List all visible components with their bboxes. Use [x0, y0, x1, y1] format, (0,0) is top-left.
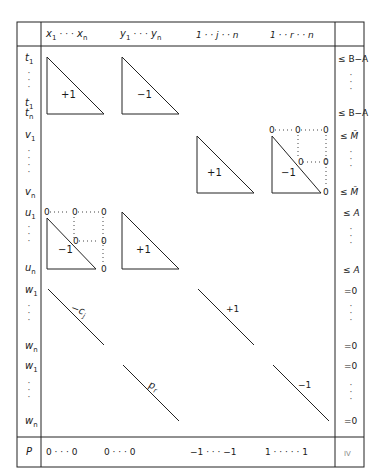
- triangle-v-j: [197, 136, 254, 193]
- constraint-t-last: ≤ B−A: [338, 108, 368, 118]
- row-label-u-last: un: [25, 263, 36, 277]
- constraint-t-first: ≤ B−A: [338, 54, 368, 64]
- block-u-x-value: −1: [58, 245, 73, 255]
- row-label-w-a-last: wn: [25, 341, 38, 355]
- zero-u-x-2: 0: [72, 207, 78, 217]
- zero-v-r-6: 0: [323, 187, 329, 197]
- constraint-w-b-last: =0: [344, 416, 357, 426]
- row-label-u-first: u1: [25, 208, 36, 222]
- row-dots-u: ···: [24, 224, 34, 245]
- row-label-w-b-last: wn: [25, 416, 38, 430]
- row-label-p: P: [26, 447, 32, 457]
- constraint-v-last: ≤ M̄: [340, 187, 358, 197]
- row-dots-w-b: ···: [24, 380, 34, 401]
- objective-r-values: 1 · · · · · 1: [265, 447, 308, 457]
- constraint-w-a-last: =0: [344, 341, 357, 351]
- row-label-v-first: v1: [25, 130, 35, 144]
- zero-v-r-4: 0: [298, 157, 304, 167]
- header-j-columns: 1 · · j · · n: [196, 30, 239, 40]
- zero-v-r-5: 0: [323, 157, 329, 167]
- constraint-p: IV: [344, 449, 351, 459]
- block-u-y-value: +1: [136, 245, 151, 255]
- row-dots-t: ···: [24, 70, 34, 91]
- objective-j-values: −1 · · · −1: [190, 447, 237, 457]
- header-y-columns: y1 · · · yn: [120, 29, 161, 43]
- constraint-u-first: ≤ A: [343, 208, 360, 218]
- diagonal-w-a-j: [198, 289, 254, 345]
- row-label-t-last-b: tn: [25, 108, 33, 122]
- objective-y-values: 0 · · · 0: [104, 447, 135, 457]
- triangle-v-r: [272, 136, 321, 193]
- diagonal-w-a-j-value: +1: [226, 304, 239, 314]
- row-label-w-b-first: w1: [25, 361, 38, 375]
- diagonal-w-b-r: [273, 365, 329, 421]
- row-dots-w-a: ···: [24, 303, 34, 324]
- zero-v-r-1: 0: [269, 125, 275, 135]
- header-r-columns: 1 · · r · · n: [270, 30, 314, 40]
- constraint-w-a-first: =0: [344, 286, 357, 296]
- zero-v-r-3: 0: [323, 125, 329, 135]
- triangle-t-x: [47, 57, 104, 114]
- matrix-drawing: [0, 0, 386, 473]
- constraint-w-b-first: =0: [344, 361, 357, 371]
- constraint-v-first: ≤ M̄: [340, 131, 358, 141]
- block-t-y-value: −1: [137, 90, 152, 100]
- zero-u-x-6: 0: [101, 264, 107, 274]
- triangle-u-y: [122, 212, 179, 269]
- block-t-x-value: +1: [61, 90, 76, 100]
- objective-x-values: 0 · · · 0: [46, 447, 77, 457]
- diagonal-w-b-r-value: −1: [298, 380, 311, 390]
- block-v-r-value: −1: [281, 168, 296, 178]
- zero-u-x-3: 0: [101, 207, 107, 217]
- zero-u-x-5: 0: [101, 236, 107, 246]
- triangle-t-y: [122, 57, 179, 114]
- row-label-v-last: vn: [25, 187, 35, 201]
- constraint-u-last: ≤ A: [343, 265, 360, 275]
- zero-u-x-1: 0: [44, 207, 50, 217]
- row-label-t-first: t1: [25, 53, 33, 67]
- zero-u-x-4: 0: [73, 236, 79, 246]
- block-v-j-value: +1: [207, 168, 222, 178]
- row-dots-v: ····: [24, 148, 34, 176]
- row-label-w-a-first: w1: [25, 285, 38, 299]
- zero-v-r-2: 0: [295, 125, 301, 135]
- header-x-columns: x1 · · · xn: [46, 29, 87, 43]
